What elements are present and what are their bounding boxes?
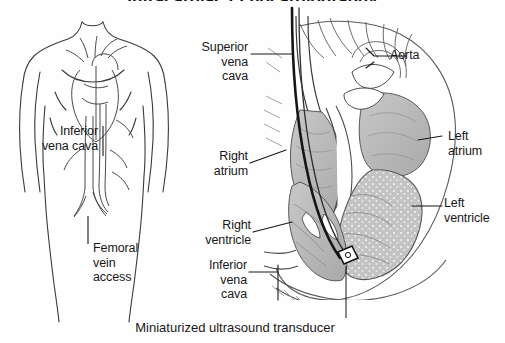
ivc-leader-line-heart bbox=[249, 265, 278, 300]
label-right-ventricle: Right ventricle bbox=[176, 218, 251, 247]
label-right-atrium: Right atrium bbox=[176, 149, 248, 178]
label-left-atrium: Left atrium bbox=[448, 129, 504, 158]
label-inferior-vena-cava-body: Inferior vena cava bbox=[8, 124, 98, 153]
label-aorta: Aorta bbox=[390, 48, 460, 63]
figure-canvas: Intracardiac Echocardiography bbox=[0, 0, 505, 343]
right-atrium-leader-line bbox=[250, 150, 286, 163]
label-inferior-vena-cava-heart: Inferior vena cava bbox=[176, 258, 247, 302]
label-femoral-vein-access: Femoral vein access bbox=[93, 241, 173, 285]
label-left-ventricle: Left ventricle bbox=[444, 196, 504, 225]
figure-caption: Miniaturized ultrasound transducer bbox=[0, 320, 470, 335]
label-superior-vena-cava: Superior vena cava bbox=[176, 40, 248, 84]
